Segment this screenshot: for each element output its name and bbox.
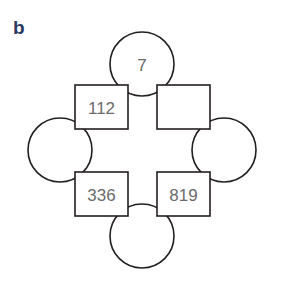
node-square-bottom-right[interactable]: 819 bbox=[157, 172, 210, 216]
square-bottom-right-value: 819 bbox=[169, 186, 197, 205]
ring-puzzle-diagram: 7 112 336 bbox=[0, 0, 281, 293]
square-top-right-outline bbox=[157, 85, 210, 129]
node-square-bottom-left[interactable]: 336 bbox=[75, 172, 128, 216]
node-square-top-right[interactable] bbox=[157, 85, 210, 129]
square-top-left-value: 112 bbox=[88, 99, 115, 118]
figure-panel: b 7 112 bbox=[0, 0, 281, 293]
circle-top-value: 7 bbox=[137, 56, 146, 75]
square-bottom-left-value: 336 bbox=[87, 186, 115, 205]
node-square-top-left[interactable]: 112 bbox=[75, 85, 128, 129]
